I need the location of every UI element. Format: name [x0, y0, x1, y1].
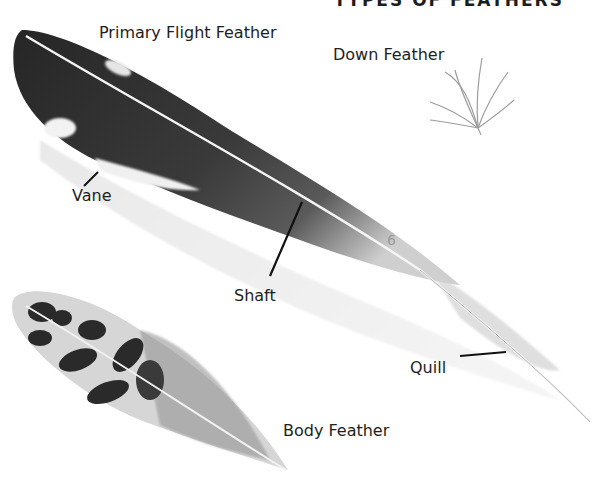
label-body-feather: Body Feather — [283, 421, 389, 440]
label-shaft: Shaft — [234, 286, 276, 305]
body-feather — [12, 291, 288, 470]
figure-title: TYPES OF FEATHERS — [334, 0, 564, 10]
label-down-feather: Down Feather — [333, 45, 444, 64]
label-quill: Quill — [410, 358, 446, 377]
label-vane: Vane — [72, 186, 112, 205]
down-feather — [430, 58, 514, 135]
label-primary-flight-feather: Primary Flight Feather — [99, 23, 276, 42]
feathers-illustration — [0, 0, 596, 492]
feather-number: 6 — [387, 232, 396, 248]
